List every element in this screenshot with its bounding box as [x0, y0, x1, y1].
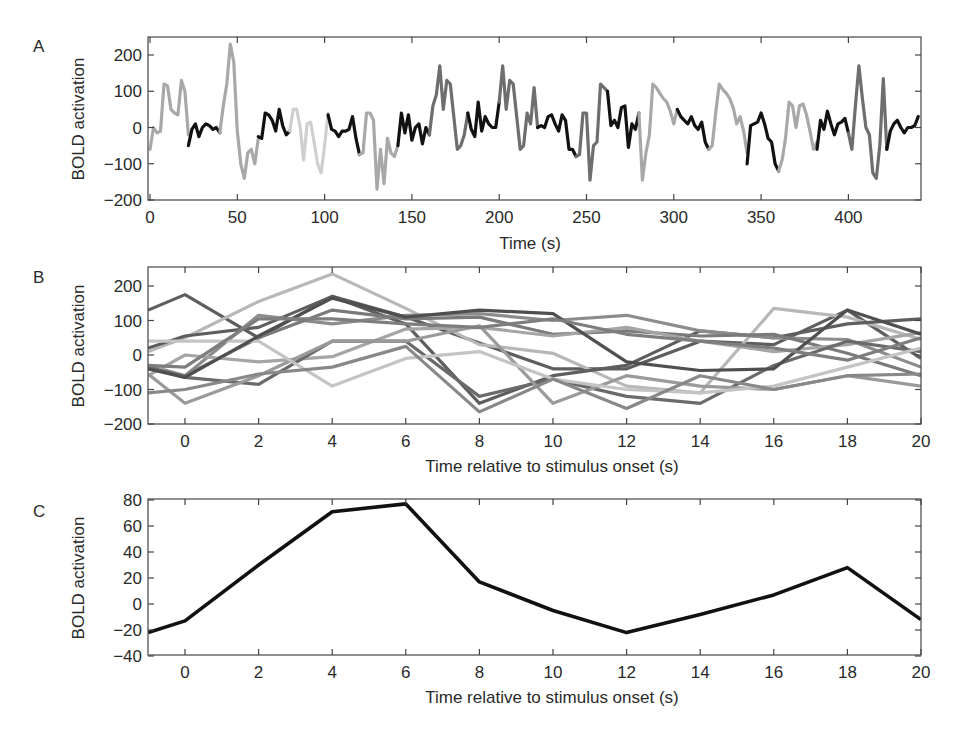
panel-b-ylabel: BOLD activation: [69, 285, 88, 408]
x-tick-label: 0: [145, 208, 154, 227]
x-tick-label: 14: [691, 663, 710, 682]
panel-a-ylabel: BOLD activation: [69, 58, 88, 181]
x-tick-label: 2: [254, 432, 263, 451]
x-tick-label: 14: [691, 432, 710, 451]
x-tick-label: 20: [912, 432, 931, 451]
series-segment: [817, 111, 848, 149]
series-segment: [328, 115, 359, 155]
series-segment: [887, 117, 918, 150]
series-segment: [608, 91, 639, 147]
series-segment: [220, 44, 258, 178]
series-segment: [538, 115, 576, 157]
y-tick-label: 0: [133, 346, 142, 365]
x-tick-label: 350: [747, 208, 775, 227]
y-tick-label: −40: [113, 647, 142, 666]
series-segment: [188, 124, 219, 146]
y-tick-label: −100: [104, 155, 142, 174]
series-segment: [576, 84, 608, 180]
series-segment: [709, 84, 747, 153]
figure: A BOLD activation 0501001502002503003504…: [0, 0, 966, 733]
series-segment: [429, 66, 467, 149]
series-segment: [360, 113, 398, 189]
x-tick-label: 20: [912, 663, 931, 682]
y-tick-label: 200: [114, 277, 142, 296]
panel-b-letter: B: [33, 268, 44, 287]
y-tick-label: 100: [114, 82, 142, 101]
y-tick-label: 80: [123, 491, 142, 510]
panel-c: C BOLD activation 02468101214161820−40−2…: [33, 491, 930, 707]
x-tick-label: 0: [180, 432, 189, 451]
y-tick-label: 40: [123, 543, 142, 562]
x-tick-label: 16: [764, 663, 783, 682]
series-segment: [499, 66, 537, 149]
series-segment: [290, 109, 328, 172]
panel-c-ylabel: BOLD activation: [69, 517, 88, 640]
series-segment: [747, 113, 779, 171]
x-tick-label: 0: [180, 663, 189, 682]
series-segment: [468, 102, 499, 137]
series-segment: [258, 109, 289, 138]
panel-b: B BOLD activation 02468101214161820−200−…: [33, 267, 930, 476]
x-tick-label: 8: [475, 663, 484, 682]
x-tick-label: 2: [254, 663, 263, 682]
panel-c-letter: C: [33, 502, 45, 521]
panel-a-plot-area: [150, 44, 918, 189]
series-segment: [639, 84, 677, 180]
x-tick-label: 300: [660, 208, 688, 227]
panel-a-letter: A: [33, 37, 45, 56]
x-tick-label: 10: [544, 432, 563, 451]
series-segment: [398, 113, 430, 146]
y-tick-label: 0: [133, 595, 142, 614]
panel-c-plot-area: [148, 504, 921, 633]
x-tick-label: 4: [327, 432, 336, 451]
series-segment: [779, 102, 817, 171]
y-tick-label: −200: [104, 415, 142, 434]
x-tick-label: 50: [228, 208, 247, 227]
x-tick-label: 400: [834, 208, 862, 227]
series-segment: [677, 109, 708, 149]
series-segment: [150, 80, 188, 149]
y-tick-label: 100: [114, 312, 142, 331]
y-tick-label: −200: [104, 191, 142, 210]
y-tick-label: −20: [113, 621, 142, 640]
x-tick-label: 8: [475, 432, 484, 451]
x-tick-label: 200: [485, 208, 513, 227]
x-tick-label: 16: [764, 432, 783, 451]
panel-a-xlabel: Time (s): [499, 234, 561, 253]
y-tick-label: 20: [123, 569, 142, 588]
x-tick-label: 6: [401, 432, 410, 451]
x-tick-label: 6: [401, 663, 410, 682]
x-tick-label: 100: [310, 208, 338, 227]
x-tick-label: 12: [617, 663, 636, 682]
x-tick-label: 250: [572, 208, 600, 227]
panel-c-ticks: 02468101214161820−40−20020406080: [113, 491, 930, 682]
x-tick-label: 4: [327, 663, 336, 682]
panel-a-ticks: 050100150200250300350400−200−1000100200: [104, 37, 921, 227]
x-tick-label: 18: [838, 663, 857, 682]
panel-c-frame: [148, 499, 921, 655]
y-tick-label: 200: [114, 46, 142, 65]
series-segment: [848, 66, 886, 178]
panel-b-xlabel: Time relative to stimulus onset (s): [425, 457, 679, 476]
panel-c-xlabel: Time relative to stimulus onset (s): [425, 688, 679, 707]
x-tick-label: 18: [838, 432, 857, 451]
y-tick-label: 60: [123, 517, 142, 536]
panel-a: A BOLD activation 0501001502002503003504…: [33, 37, 921, 253]
x-tick-label: 150: [398, 208, 426, 227]
x-tick-label: 12: [617, 432, 636, 451]
y-tick-label: 0: [133, 119, 142, 138]
y-tick-label: −100: [104, 381, 142, 400]
panel-b-plot-area: [148, 274, 921, 412]
series-line: [148, 504, 921, 633]
x-tick-label: 10: [544, 663, 563, 682]
